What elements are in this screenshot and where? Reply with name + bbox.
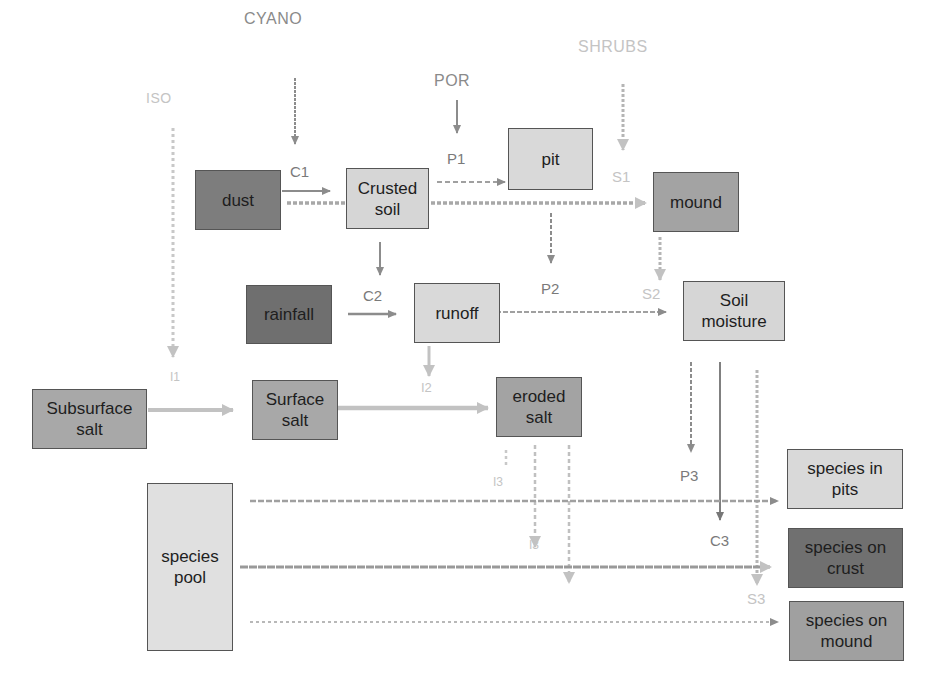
edge-label-p3: P3 [680, 467, 698, 484]
box-pit: pit [508, 128, 593, 190]
edge-label-s2: S2 [642, 285, 660, 302]
edge-label-p1: P1 [447, 150, 465, 167]
edge-label-i3-b: I3 [529, 538, 539, 552]
box-species-pool: species pool [147, 483, 233, 651]
box-rainfall: rainfall [246, 285, 332, 344]
diagram-canvas: CYANO POR SHRUBS ISO dust Crusted soil p… [0, 0, 934, 686]
edge-label-i3-a: I3 [493, 475, 503, 489]
box-subsurface-salt: Subsurface salt [32, 389, 147, 449]
edge-label-i2: I2 [421, 380, 432, 395]
box-soil-moisture: Soil moisture [683, 281, 785, 341]
box-species-on-mound: species on mound [789, 601, 904, 661]
box-runoff: runoff [414, 283, 500, 343]
box-surface-salt: Surface salt [252, 380, 338, 440]
edge-label-s3: S3 [747, 590, 765, 607]
edge-label-s1: S1 [612, 168, 630, 185]
edge-label-p2: P2 [541, 280, 559, 297]
edge-label-c2: C2 [363, 287, 382, 304]
box-species-in-pits: species in pits [787, 449, 903, 509]
box-dust: dust [195, 170, 281, 230]
driver-iso: ISO [146, 90, 172, 106]
edge-label-c1: C1 [290, 163, 309, 180]
box-crusted-soil: Crusted soil [346, 168, 429, 229]
driver-shrubs: SHRUBS [578, 38, 648, 56]
driver-por: POR [434, 72, 470, 90]
driver-cyano: CYANO [244, 10, 302, 28]
edge-label-c3: C3 [710, 532, 729, 549]
box-species-on-crust: species on crust [788, 528, 903, 588]
box-eroded-salt: eroded salt [496, 377, 582, 437]
edge-label-i1: I1 [170, 370, 180, 384]
box-mound: mound [653, 172, 739, 232]
